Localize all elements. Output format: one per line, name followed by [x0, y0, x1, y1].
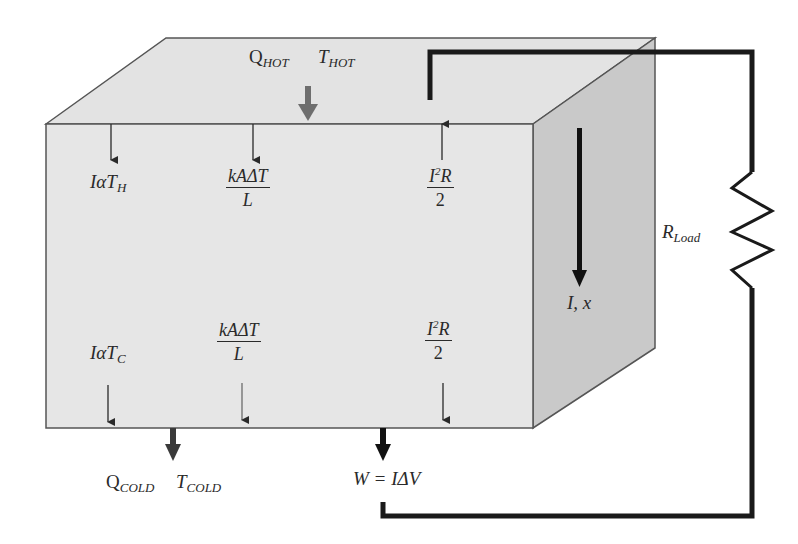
joule-bottom-exponent: 2: [433, 318, 439, 330]
heat-out-arrow-icon: [165, 428, 181, 461]
t-cold-symbol: T: [176, 471, 187, 492]
joule-top-tail: R: [441, 166, 452, 186]
peltier-cold-symbol: T: [106, 342, 117, 363]
joule-top-denominator: 2: [427, 188, 454, 209]
r-load-label: RLoad: [662, 222, 700, 241]
q-cold-subscript: COLD: [120, 480, 155, 495]
r-load-subscript: Load: [674, 230, 701, 245]
joule-top-exponent: 2: [435, 165, 441, 177]
current-label: I, x: [567, 293, 591, 312]
peltier-cold-label: IαTC: [90, 343, 126, 362]
conduction-bottom-denominator: L: [217, 342, 261, 363]
load-resistor-zigzag: [732, 172, 772, 288]
joule-bottom-tail: R: [439, 319, 450, 339]
module-front-face: [46, 124, 533, 428]
t-cold-label: TCOLD: [176, 472, 221, 491]
q-hot-symbol: Q: [249, 46, 263, 67]
work-label: W = IΔV: [353, 469, 420, 488]
q-cold-symbol: Q: [106, 471, 120, 492]
peltier-hot-label: IαTH: [90, 172, 126, 191]
conduction-top-numerator: kAΔT: [226, 167, 270, 188]
joule-bottom-denominator: 2: [425, 341, 452, 362]
conduction-bottom-fraction: kAΔT L: [217, 321, 261, 363]
joule-top-fraction: I2R 2: [427, 167, 454, 209]
conduction-top-denominator: L: [226, 188, 270, 209]
q-hot-subscript: HOT: [263, 55, 289, 70]
t-hot-subscript: HOT: [329, 55, 355, 70]
peltier-hot-prefix: Iα: [90, 171, 106, 192]
q-cold-label: QCOLD: [106, 472, 154, 491]
r-load-symbol: R: [662, 221, 674, 242]
t-cold-subscript: COLD: [187, 480, 222, 495]
joule-bottom-numerator: I2R: [425, 320, 452, 341]
q-hot-label: QHOT: [249, 47, 289, 66]
peltier-cold-subscript: C: [117, 351, 126, 366]
peltier-hot-symbol: T: [106, 171, 117, 192]
t-hot-label: THOT: [318, 47, 355, 66]
thermoelectric-diagram: [0, 0, 798, 544]
joule-top-numerator: I2R: [427, 167, 454, 188]
peltier-hot-subscript: H: [117, 180, 126, 195]
t-hot-symbol: T: [318, 46, 329, 67]
joule-bottom-fraction: I2R 2: [425, 320, 452, 362]
peltier-cold-prefix: Iα: [90, 342, 106, 363]
work-arrow-icon: [375, 428, 391, 461]
conduction-bottom-numerator: kAΔT: [217, 321, 261, 342]
conduction-top-fraction: kAΔT L: [226, 167, 270, 209]
